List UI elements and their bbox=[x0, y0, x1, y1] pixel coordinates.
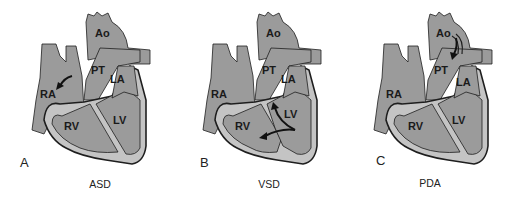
label-pulmonary-trunk: PT bbox=[91, 64, 105, 76]
heart-diagram-icon bbox=[342, 0, 514, 206]
label-right-ventricle: RV bbox=[235, 120, 250, 132]
label-right-atrium: RA bbox=[386, 88, 402, 100]
label-left-atrium: LA bbox=[281, 73, 296, 85]
panel-caption: ASD bbox=[70, 178, 130, 190]
panel-letter: B bbox=[200, 155, 209, 170]
panel-caption: PDA bbox=[400, 177, 460, 189]
panel-letter: C bbox=[376, 153, 385, 168]
label-left-ventricle: LV bbox=[284, 108, 297, 120]
label-pulmonary-trunk: PT bbox=[434, 64, 448, 76]
panel-caption: VSD bbox=[239, 178, 299, 190]
label-aorta: Ao bbox=[266, 27, 281, 39]
panel-b-vsd: Ao PT LA RA RV LV B VSD bbox=[171, 0, 342, 206]
panel-c-pda: Ao PT LA RA RV LV C PDA bbox=[342, 0, 513, 206]
label-left-ventricle: LV bbox=[113, 114, 126, 126]
panel-a-asd: Ao PT LA RA RV LV A ASD bbox=[0, 0, 171, 206]
label-right-ventricle: RV bbox=[64, 120, 79, 132]
label-left-atrium: LA bbox=[110, 73, 125, 85]
panel-letter: A bbox=[20, 155, 29, 170]
label-left-ventricle: LV bbox=[452, 114, 465, 126]
label-aorta: Ao bbox=[95, 27, 110, 39]
label-right-ventricle: RV bbox=[408, 120, 423, 132]
label-right-atrium: RA bbox=[211, 88, 227, 100]
label-right-atrium: RA bbox=[40, 88, 56, 100]
label-left-atrium: LA bbox=[456, 76, 471, 88]
label-aorta: Ao bbox=[436, 27, 451, 39]
heart-diagram-icon bbox=[171, 0, 342, 206]
heart-diagram-icon bbox=[0, 0, 171, 206]
label-pulmonary-trunk: PT bbox=[262, 64, 276, 76]
